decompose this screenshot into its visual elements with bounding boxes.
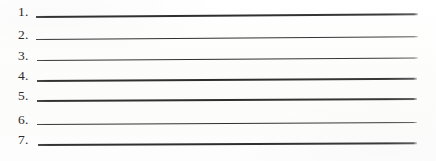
answer-line-field[interactable] <box>36 25 418 45</box>
answer-line-field[interactable] <box>36 2 418 22</box>
worksheet-page: 1. 2. 3. 4. 5. 6. 7. <box>0 0 436 161</box>
answer-line-field[interactable] <box>38 130 417 150</box>
answer-line-field[interactable] <box>37 86 417 106</box>
answer-rule-line <box>37 78 417 82</box>
answer-line-field[interactable] <box>37 110 417 130</box>
answer-line-field[interactable] <box>37 66 417 86</box>
list-item: 5. <box>0 86 436 112</box>
list-item: 7. <box>0 130 436 156</box>
answer-rule-line <box>37 122 417 125</box>
answer-line-field[interactable] <box>37 46 418 66</box>
answer-rule-line <box>38 142 417 145</box>
answer-rule-line <box>37 98 417 102</box>
list-item-number: 7. <box>18 130 40 150</box>
answer-rule-line <box>36 13 418 17</box>
answer-rule-line <box>36 36 418 40</box>
answer-rule-line <box>37 57 418 61</box>
